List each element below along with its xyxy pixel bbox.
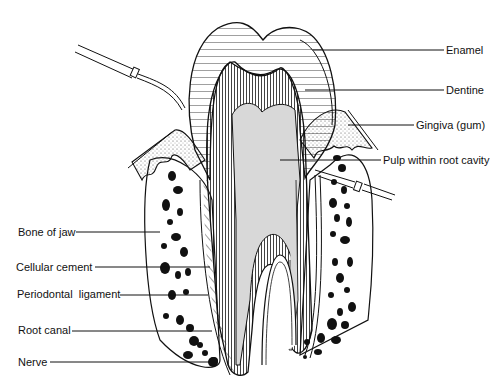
label-bone-of-jaw: Bone of jaw	[18, 226, 75, 238]
label-gingiva: Gingiva (gum)	[416, 119, 485, 131]
label-nerve: Nerve	[18, 356, 47, 368]
label-dentine: Dentine	[446, 84, 484, 96]
dental-probe-left	[75, 45, 185, 110]
tooth-diagram	[0, 0, 502, 389]
label-root-canal: Root canal	[18, 324, 71, 336]
label-cellular-cement: Cellular cement	[16, 261, 92, 273]
label-enamel: Enamel	[446, 44, 483, 56]
label-pulp: Pulp within root cavity	[383, 154, 489, 166]
label-periodontal-ligament: Periodontal ligament	[17, 288, 120, 300]
